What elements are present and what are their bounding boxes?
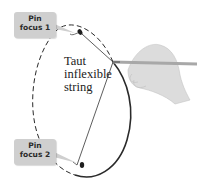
- pin-focus-1-label: Pin focus 1: [14, 12, 56, 38]
- ellipse-figure: Pin focus 1 Pin focus 2 Taut inflexible …: [0, 0, 213, 188]
- pin-focus-1-line1: Pin: [17, 14, 53, 23]
- pin-focus-2-label: Pin focus 2: [14, 139, 56, 165]
- pin-focus-2-icon: [80, 162, 84, 168]
- pin-focus-2-line1: Pin: [17, 141, 53, 150]
- string-caption-line3: string: [64, 81, 112, 94]
- string-caption: Taut inflexible string: [64, 55, 112, 94]
- pencil-icon: [113, 62, 197, 64]
- hand-icon: [128, 44, 190, 104]
- pin-focus-2-line2: focus 2: [17, 150, 53, 159]
- pin-focus-1-line2: focus 1: [17, 23, 53, 32]
